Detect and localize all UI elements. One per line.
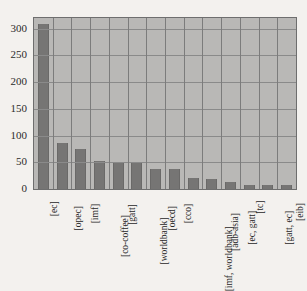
y-axis-tick-label: 150 <box>11 102 28 113</box>
vertical-gridline <box>184 18 185 189</box>
bar <box>113 162 124 189</box>
bar <box>94 161 105 189</box>
y-axis-tick-label: 100 <box>11 129 28 140</box>
y-axis-tick-label: 250 <box>11 49 28 60</box>
x-axis-tick-label: [imf] <box>90 204 100 224</box>
vertical-gridline <box>128 18 129 189</box>
vertical-gridline <box>221 18 222 189</box>
vertical-gridline <box>109 18 110 189</box>
x-axis-tick-label: [gatt, ec] <box>284 211 294 245</box>
bar <box>169 169 180 189</box>
y-axis-tick-label: 200 <box>11 76 28 87</box>
y-axis-labels: 050100150200250300 <box>0 0 31 195</box>
x-axis-tick-label: [ec, gatt] <box>247 211 257 245</box>
bar <box>75 149 86 189</box>
bar <box>150 169 161 189</box>
vertical-gridline <box>53 18 54 189</box>
x-axis-tick-label: [eib] <box>295 203 305 221</box>
x-axis-tick-label: [ec] <box>49 201 59 216</box>
vertical-gridline <box>71 18 72 189</box>
vertical-gridline <box>259 18 260 189</box>
vertical-gridline <box>240 18 241 189</box>
bar <box>188 178 199 189</box>
vertical-gridline <box>202 18 203 189</box>
bar <box>38 24 49 189</box>
bar <box>262 185 273 189</box>
x-axis-tick-label: [oecd] <box>167 206 177 230</box>
x-axis-tick-label: [opec] <box>73 206 83 230</box>
plot-area <box>33 17 297 190</box>
x-axis-tick-label: [tc] <box>255 201 265 214</box>
bar <box>131 163 142 189</box>
y-axis-tick-label: 50 <box>16 156 27 167</box>
y-axis-tick-label: 0 <box>22 183 28 194</box>
y-axis-tick-label: 300 <box>11 22 28 33</box>
x-axis-tick-label: [adb-asia] <box>230 213 240 251</box>
vertical-gridline <box>146 18 147 189</box>
bar <box>206 179 217 189</box>
x-axis-labels: [ec][opec][imf][co-coffee][gatt][worldba… <box>33 192 297 278</box>
bar <box>225 182 236 189</box>
vertical-gridline <box>277 18 278 189</box>
x-axis-tick-label: [cco] <box>183 204 193 224</box>
vertical-gridline <box>90 18 91 189</box>
bar <box>57 143 68 189</box>
vertical-gridline <box>165 18 166 189</box>
bar <box>244 185 255 189</box>
x-axis-tick-label: [gatt] <box>127 204 137 225</box>
bar <box>281 185 292 189</box>
